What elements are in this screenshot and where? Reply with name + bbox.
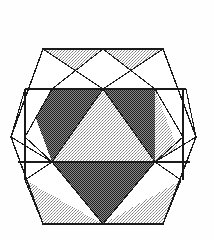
figure-root xyxy=(0,0,214,239)
region-fills xyxy=(11,49,196,224)
tessellation-diagram xyxy=(0,0,214,239)
